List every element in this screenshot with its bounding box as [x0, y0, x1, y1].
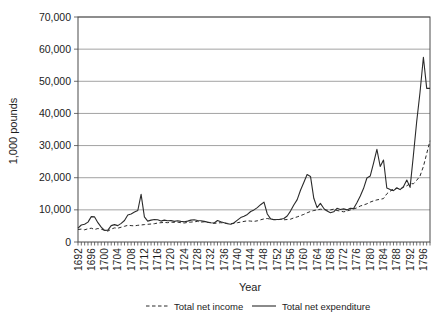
x-tick-label: 1700: [99, 248, 110, 271]
x-tick-label: 1712: [139, 248, 150, 271]
y-tick-label: 30,000: [39, 139, 71, 151]
y-tick-label: 20,000: [39, 171, 71, 183]
series-line-expenditure: [78, 57, 430, 230]
x-tick-label: 1716: [152, 248, 163, 271]
chart-figure: 010,00020,00030,00040,00050,00060,00070,…: [0, 0, 445, 320]
x-tick-label: 1756: [285, 248, 296, 271]
y-tick-label: 0: [65, 236, 71, 248]
plot-border: [78, 17, 430, 242]
series-line-income: [78, 141, 430, 231]
y-axis-title: 1,000 pounds: [7, 97, 19, 164]
legend-expenditure-label: Total net expenditure: [282, 301, 370, 312]
x-tick-label: 1696: [86, 248, 97, 271]
x-tick-label: 1728: [192, 248, 203, 271]
y-tick-label: 10,000: [39, 203, 71, 215]
x-tick-label: 1768: [325, 248, 336, 271]
x-tick-label: 1732: [205, 248, 216, 271]
x-tick-label: 1772: [338, 248, 349, 271]
x-tick-label: 1784: [378, 248, 389, 271]
x-tick-label: 1708: [126, 248, 137, 271]
x-tick-label: 1764: [312, 248, 323, 271]
x-tick-label: 1740: [232, 248, 243, 271]
x-tick-label: 1780: [365, 248, 376, 271]
x-tick-label: 1692: [73, 248, 84, 271]
x-tick-label: 1776: [351, 248, 362, 271]
x-tick-label: 1748: [258, 248, 269, 271]
x-tick-label: 1736: [219, 248, 230, 271]
y-tick-label: 50,000: [39, 75, 71, 87]
x-tick-label: 1720: [165, 248, 176, 271]
x-tick-label: 1792: [405, 248, 416, 271]
plot-svg: 010,00020,00030,00040,00050,00060,00070,…: [0, 0, 445, 320]
x-tick-label: 1752: [272, 248, 283, 271]
generated-plot: 010,00020,00030,00040,00050,00060,00070,…: [39, 11, 430, 272]
legend: Total net income Total net expenditure: [146, 301, 370, 312]
x-axis-title: Year: [239, 281, 262, 293]
x-tick-label: 1724: [179, 248, 190, 271]
y-tick-label: 40,000: [39, 107, 71, 119]
x-tick-label: 1760: [298, 248, 309, 271]
x-tick-label: 1744: [245, 248, 256, 271]
y-tick-label: 60,000: [39, 43, 71, 55]
x-tick-label: 1704: [112, 248, 123, 271]
legend-income-label: Total net income: [174, 301, 243, 312]
x-tick-label: 1796: [418, 248, 429, 271]
x-tick-label: 1788: [391, 248, 402, 271]
y-tick-label: 70,000: [39, 11, 71, 23]
